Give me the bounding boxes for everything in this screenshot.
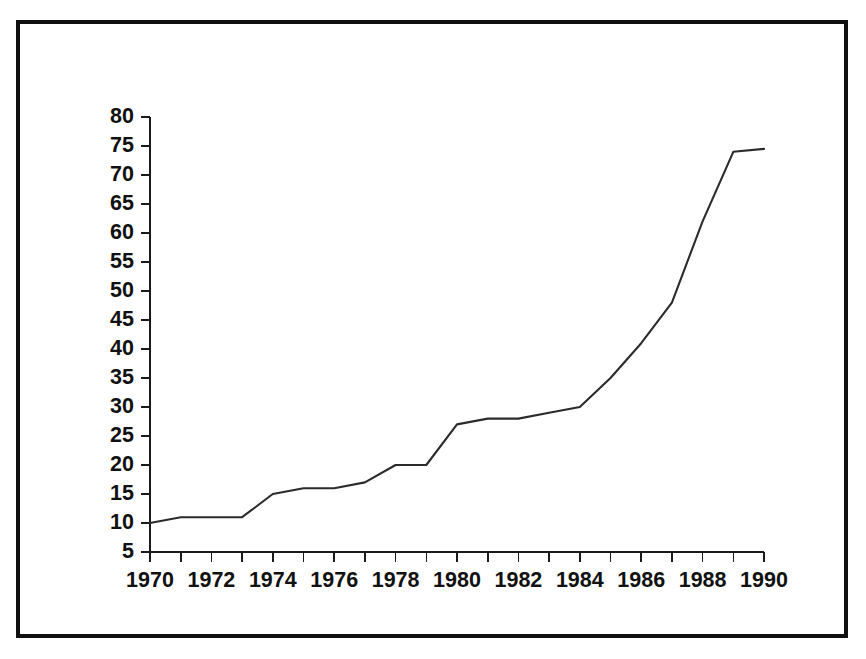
x-tick-label: 1974 (249, 568, 297, 592)
x-tick-label: 1980 (433, 568, 481, 592)
y-tick-label: 75 (110, 133, 134, 157)
plot-background (20, 24, 844, 634)
y-tick-label: 25 (110, 423, 134, 447)
y-tick-label: 40 (110, 336, 134, 360)
x-tick-label: 1970 (126, 568, 174, 592)
x-tick-label: 1982 (494, 568, 542, 592)
y-tick-label: 55 (110, 249, 134, 273)
figure-border-frame: 5101520253035404550556065707580 19701972… (16, 20, 848, 638)
y-tick-label: 45 (110, 307, 134, 331)
x-tick-label: 1990 (740, 568, 788, 592)
x-tick-label: 1978 (372, 568, 420, 592)
y-tick-label: 20 (110, 452, 134, 476)
y-tick-label: 60 (110, 220, 134, 244)
y-tick-label: 5 (122, 539, 134, 563)
y-tick-label: 30 (110, 394, 134, 418)
x-tick-label: 1976 (310, 568, 358, 592)
x-tick-label: 1984 (556, 568, 604, 592)
x-tick-label: 1986 (617, 568, 665, 592)
x-tick-label: 1972 (187, 568, 235, 592)
y-tick-label: 80 (110, 104, 134, 128)
y-tick-label: 65 (110, 191, 134, 215)
y-tick-label: 70 (110, 162, 134, 186)
y-tick-label: 10 (110, 510, 134, 534)
y-tick-label: 35 (110, 365, 134, 389)
x-tick-label: 1988 (679, 568, 727, 592)
line-chart: 5101520253035404550556065707580 19701972… (20, 24, 844, 634)
y-tick-label: 50 (110, 278, 134, 302)
y-tick-label: 15 (110, 481, 134, 505)
figure-root: 5101520253035404550556065707580 19701972… (0, 0, 866, 659)
